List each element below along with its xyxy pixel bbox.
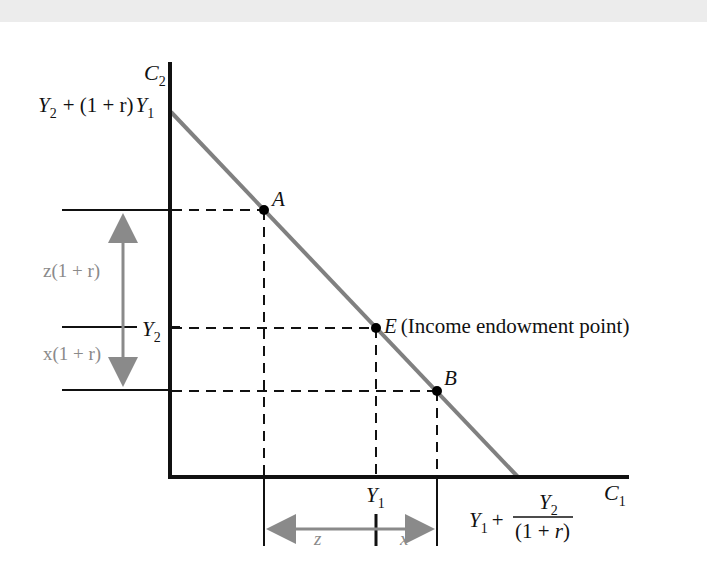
y1-tick-label: Y1 bbox=[366, 483, 385, 511]
x-axis-label: C1 bbox=[604, 480, 626, 509]
x-vertical-label: x(1 + r) bbox=[43, 343, 101, 365]
point-a-label: A bbox=[270, 187, 285, 211]
y2-tick-label: Y2 bbox=[142, 317, 161, 345]
svg-text:Y2: Y2 bbox=[539, 490, 558, 518]
budget-constraint-diagram: C2 C1 Y2+ (1 + r)Y1 Y2 Y1 Y1+ Y2 (1 + r)… bbox=[0, 0, 707, 581]
point-b bbox=[432, 386, 442, 396]
x-horizontal-label: x bbox=[399, 528, 409, 549]
z-horizontal-label: z bbox=[313, 528, 322, 549]
z-vertical-label: z(1 + r) bbox=[43, 260, 100, 282]
point-e-label: E(Income endowment point) bbox=[383, 314, 629, 338]
bottom-ticks bbox=[264, 477, 437, 546]
point-e bbox=[371, 323, 381, 333]
svg-text:Y1+: Y1+ bbox=[469, 508, 504, 536]
point-b-label: B bbox=[444, 366, 457, 390]
point-a bbox=[259, 205, 269, 215]
y-axis-label: C2 bbox=[144, 60, 166, 89]
x-intercept-label: Y1+ Y2 (1 + r) bbox=[469, 490, 573, 543]
svg-text:(1 + r): (1 + r) bbox=[515, 519, 570, 543]
budget-line bbox=[171, 112, 518, 477]
y-intercept-label: Y2+ (1 + r)Y1 bbox=[38, 93, 154, 121]
